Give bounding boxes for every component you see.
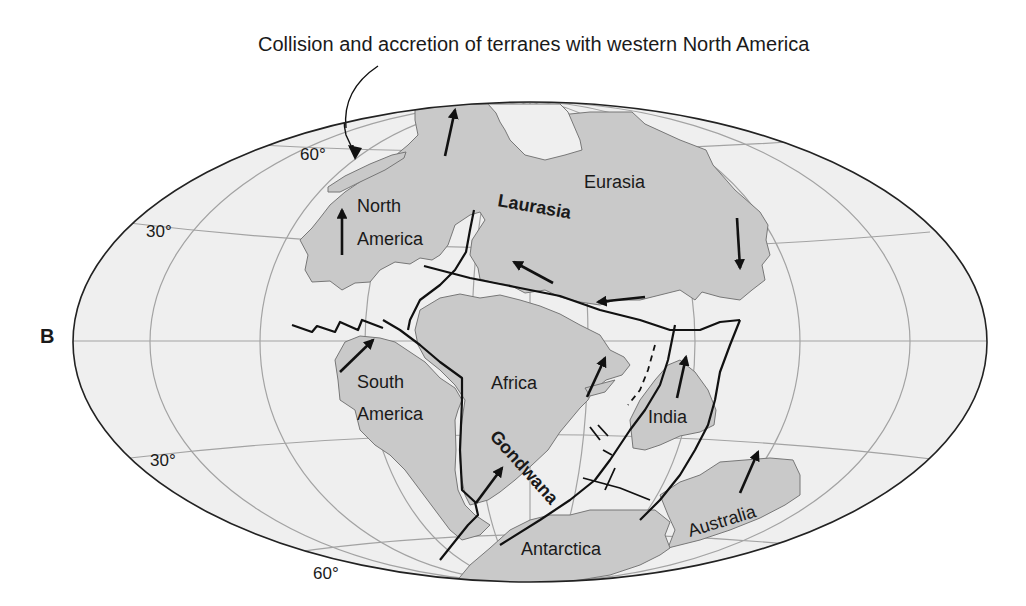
label-antarctica: Antarctica	[521, 539, 602, 559]
label-south-america-line2: America	[357, 404, 424, 424]
label-north-america-line2: America	[357, 229, 424, 249]
label-south-america-line1: South	[357, 372, 404, 392]
lat-label-n60: 60°	[300, 145, 326, 164]
lat-label-s60: 60°	[313, 564, 339, 583]
lat-label-s30: 30°	[150, 451, 176, 470]
lat-label-n30: 30°	[146, 222, 172, 241]
label-eurasia: Eurasia	[584, 172, 646, 192]
label-india: India	[648, 407, 688, 427]
mollweide-paleogeographic-map: 60° 30° 30° 60° North America Eurasia La…	[0, 0, 1026, 606]
label-africa: Africa	[491, 373, 538, 393]
label-north-america-line1: North	[357, 196, 401, 216]
